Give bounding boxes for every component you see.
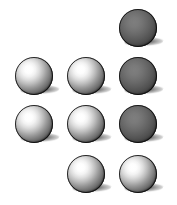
sphere-body-dark xyxy=(119,105,157,143)
grid-cell-r1c2 xyxy=(66,8,118,58)
sphere-r1c3 xyxy=(118,8,158,48)
grid-cell-r3c1 xyxy=(14,104,66,154)
sphere-rim xyxy=(15,105,53,143)
grid-cell-r3c2 xyxy=(66,104,118,154)
sphere-r3c1 xyxy=(14,104,54,144)
sphere-body-bright xyxy=(67,155,105,193)
sphere-body-bright xyxy=(67,57,105,95)
grid-cell-r4c1 xyxy=(14,154,66,204)
grid-cell-r4c2 xyxy=(66,154,118,204)
sphere-r3c2 xyxy=(66,104,106,144)
grid-cell-r4c3 xyxy=(118,154,170,204)
sphere-body-bright xyxy=(119,155,157,193)
sphere-rim xyxy=(15,57,53,95)
sphere-r2c2 xyxy=(66,56,106,96)
sphere-r4c3 xyxy=(118,154,158,194)
grid-cell-r2c1 xyxy=(14,56,66,106)
sphere-rim xyxy=(119,9,157,47)
sphere-r4c2 xyxy=(66,154,106,194)
sphere-rim xyxy=(119,155,157,193)
sphere-rim xyxy=(119,105,157,143)
sphere-rim xyxy=(67,155,105,193)
sphere-r2c3 xyxy=(118,56,158,96)
sphere-body-dark xyxy=(119,9,157,47)
sphere-body-dark xyxy=(119,57,157,95)
sphere-body-bright xyxy=(15,105,53,143)
grid-cell-r2c2 xyxy=(66,56,118,106)
sphere-body-bright xyxy=(15,57,53,95)
sphere-r2c1 xyxy=(14,56,54,96)
sphere-rim xyxy=(119,57,157,95)
grid-cell-r2c3 xyxy=(118,56,170,106)
grid-cell-r3c3 xyxy=(118,104,170,154)
sphere-grid xyxy=(0,0,177,205)
grid-cell-r1c1 xyxy=(14,8,66,58)
sphere-r3c3 xyxy=(118,104,158,144)
grid-cell-r1c3 xyxy=(118,8,170,58)
sphere-body-bright xyxy=(67,105,105,143)
sphere-rim xyxy=(67,57,105,95)
sphere-rim xyxy=(67,105,105,143)
